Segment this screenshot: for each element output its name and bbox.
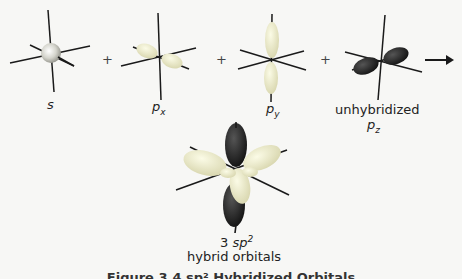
label-py: py bbox=[266, 101, 280, 119]
px-orbital bbox=[121, 13, 196, 100]
label-s: s bbox=[47, 97, 54, 112]
label-unhybridized: unhybridized bbox=[335, 102, 420, 117]
figure-caption-clipped: Figure 3.4 sp² Hybridized Orbitals bbox=[0, 268, 462, 279]
label-pz: pz bbox=[367, 117, 380, 135]
plus-operator: + bbox=[102, 52, 113, 67]
pz-orbital bbox=[345, 15, 422, 100]
figure-caption: Figure 3.4 sp² Hybridized Orbitals bbox=[0, 270, 462, 279]
label-hybrid-orbitals: hybrid orbitals bbox=[187, 249, 281, 264]
label-sp2-count: 3 sp2 bbox=[220, 234, 253, 250]
plus-operator: + bbox=[320, 52, 331, 67]
py-orbital bbox=[238, 14, 306, 102]
arrow-icon bbox=[425, 55, 454, 65]
label-px: px bbox=[152, 99, 166, 117]
sp2-hybrid-orbitals bbox=[176, 122, 289, 233]
s-orbital bbox=[10, 10, 90, 92]
plus-operator: + bbox=[216, 52, 227, 67]
